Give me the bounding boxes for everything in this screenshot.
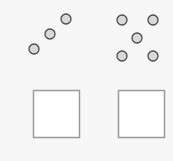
dot-circle-icon [117,51,127,61]
left-answer-box[interactable] [34,91,80,138]
dot-circle-icon [61,14,71,24]
diagram-svg [0,0,173,161]
dot-circle-icon [45,29,55,39]
right-answer-box[interactable] [119,91,165,138]
boxes-layer [34,91,165,138]
dot-circle-icon [132,33,142,43]
dot-circle-icon [29,44,39,54]
dots-layer [29,14,158,61]
five-dots-group [117,15,158,61]
dot-circle-icon [148,15,158,25]
dot-circle-icon [117,15,127,25]
dot-pattern-diagram [0,0,173,161]
three-dots-group [29,14,71,54]
dot-circle-icon [148,51,158,61]
